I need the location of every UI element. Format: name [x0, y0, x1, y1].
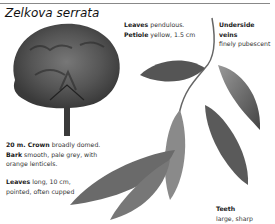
label-crown-bark: 20 m. Crown broadly domed. Bark smooth, … — [6, 140, 106, 169]
label-underside-veins: Underside veins finely pubescent — [219, 20, 275, 49]
label-leaves-length: Leaves long, 10 cm, pointed, often cuppe… — [6, 177, 76, 196]
tree-illustration — [13, 24, 119, 136]
label-leaves-petiole: Leaves pendulous. Petiole yellow, 1.5 cm — [124, 20, 195, 39]
label-teeth: Teeth large, sharp — [216, 204, 253, 223]
